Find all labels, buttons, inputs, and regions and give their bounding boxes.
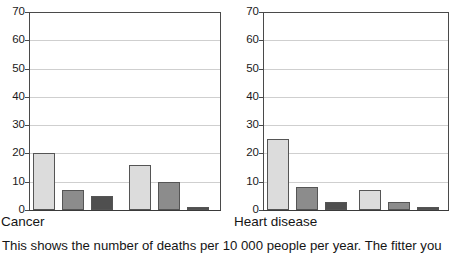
bar-cancer-g2-medium: [158, 182, 180, 210]
y-axis-labels-cancer: 010203040506070: [0, 12, 25, 210]
y-tick-label-70: 70: [0, 6, 25, 18]
y-tick-label-50: 50: [0, 63, 25, 75]
y-axis-labels-heart-disease: 010203040506070: [228, 12, 259, 210]
bar-heart-disease-g1-medium: [296, 187, 318, 210]
y-tick-label-60: 60: [228, 35, 259, 47]
figure-caption: This shows the number of deaths per 10 0…: [2, 238, 454, 254]
y-tick-label-10: 10: [0, 176, 25, 188]
y-tick-label-40: 40: [228, 91, 259, 103]
chart-panel-cancer: 010203040506070 Cancer: [0, 0, 228, 236]
bar-group-container-cancer: [29, 12, 221, 210]
y-tick-label-50: 50: [228, 63, 259, 75]
figure: 010203040506070 Cancer 010203040506070 H…: [0, 0, 456, 260]
category-label-heart-disease: Heart disease: [234, 214, 317, 229]
bar-cancer-g2-light: [129, 165, 151, 210]
bar-heart-disease-g2-dark: [417, 207, 439, 210]
bar-heart-disease-g1-light: [267, 139, 289, 210]
y-tick-label-30: 30: [228, 119, 259, 131]
y-tick-label-10: 10: [228, 176, 259, 188]
bar-cancer-g1-dark: [91, 196, 113, 210]
y-tick-label-40: 40: [0, 91, 25, 103]
y-tick-label-70: 70: [228, 6, 259, 18]
bar-heart-disease-g2-medium: [388, 202, 410, 210]
bar-cancer-g1-light: [33, 153, 55, 210]
x-axis-cancer: [29, 210, 221, 211]
bar-heart-disease-g1-dark: [325, 202, 347, 210]
y-tick-label-20: 20: [228, 148, 259, 160]
bar-group-container-heart-disease: [263, 12, 449, 210]
bar-cancer-g2-dark: [187, 207, 209, 210]
chart-panel-heart-disease: 010203040506070 Heart disease: [228, 0, 456, 236]
bar-cancer-g1-medium: [62, 190, 84, 210]
bar-heart-disease-g2-light: [359, 190, 381, 210]
y-tick-label-60: 60: [0, 35, 25, 47]
category-label-cancer: Cancer: [1, 214, 45, 229]
x-axis-heart-disease: [263, 210, 449, 211]
y-tick-label-20: 20: [0, 148, 25, 160]
y-tick-label-30: 30: [0, 119, 25, 131]
